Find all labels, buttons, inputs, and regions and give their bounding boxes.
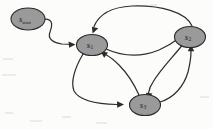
edge-s1-to-s2 [106,35,184,55]
state-diagram-canvas: sstart s1 s2 s3 [0,0,213,129]
edge-s2-to-s1 [92,6,192,34]
edge-s3-to-s1 [101,52,140,95]
node-s2[interactable]: s2 [175,27,206,48]
arrowhead-icon [92,27,98,34]
arrowhead-icon [117,101,124,107]
node-s1[interactable]: s1 [77,35,108,56]
node-s3[interactable]: s3 [130,95,161,116]
arrowhead-icon [69,41,76,47]
edge-s3-to-s2 [160,45,194,103]
diagram-graphics: sstart s1 s2 s3 [0,0,213,129]
edge-start-to-s1 [45,19,76,48]
node-s-start[interactable]: sstart [11,8,45,30]
